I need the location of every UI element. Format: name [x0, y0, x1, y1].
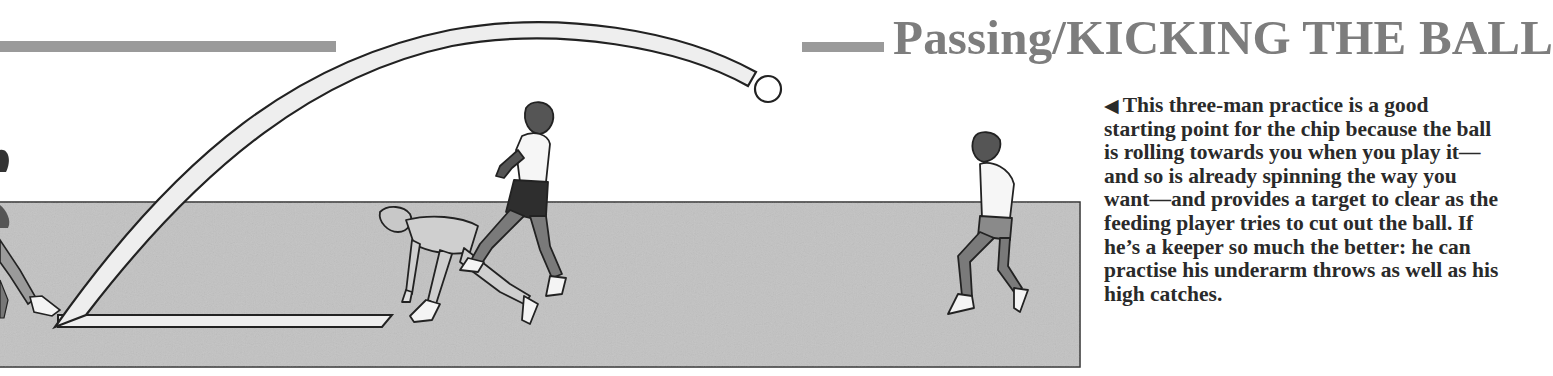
header-rule-right [802, 42, 884, 52]
caption-body: This three-man practice is a good starti… [1104, 93, 1498, 306]
ball-icon [755, 76, 781, 102]
caption-text: ◀This three-man practice is a good start… [1104, 94, 1500, 306]
page-title: Passing/KICKING THE BALL [893, 13, 1553, 62]
left-pointer-icon: ◀ [1104, 95, 1119, 116]
header-rule-left [0, 41, 336, 52]
